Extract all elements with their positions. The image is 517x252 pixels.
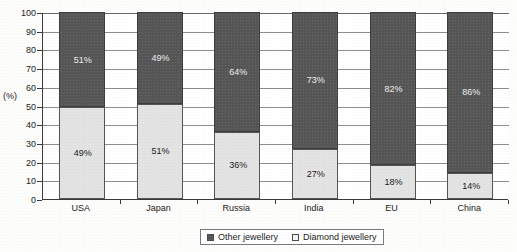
y-tick-label-80: 80 xyxy=(10,46,36,55)
x-tick-label-china: China xyxy=(429,203,509,213)
y-tick-mark-100 xyxy=(37,13,42,14)
chart-legend: Other jewelleryDiamond jewellery xyxy=(200,229,384,245)
y-tick-mark-50 xyxy=(37,107,42,108)
y-tick-label-10: 10 xyxy=(10,177,36,186)
y-tick-label-60: 60 xyxy=(10,84,36,93)
legend-label: Diamond jewellery xyxy=(303,233,377,242)
y-tick-label-70: 70 xyxy=(10,65,36,74)
y-tick-label-90: 90 xyxy=(10,28,36,37)
y-tick-mark-40 xyxy=(37,125,42,126)
stacked-bar-chart: 49%51%51%49%36%64%27%73%18%82%14%86% (%)… xyxy=(0,0,517,252)
y-tick-label-30: 30 xyxy=(10,140,36,149)
legend-entry-other-jewellery[interactable]: Other jewellery xyxy=(207,233,278,242)
legend-entry-diamond-jewellery[interactable]: Diamond jewellery xyxy=(292,233,377,242)
y-tick-mark-80 xyxy=(37,50,42,51)
x-tick-label-eu: EU xyxy=(352,203,432,213)
light-gray-swatch xyxy=(292,234,299,241)
y-tick-mark-0 xyxy=(37,200,42,201)
x-tick-label-india: India xyxy=(274,203,354,213)
x-tick-label-usa: USA xyxy=(41,203,121,213)
y-tick-label-40: 40 xyxy=(10,121,36,130)
y-tick-label-0: 0 xyxy=(10,196,36,205)
y-tick-mark-90 xyxy=(37,32,42,33)
y-tick-mark-30 xyxy=(37,144,42,145)
y-tick-mark-10 xyxy=(37,181,42,182)
x-tick-label-japan: Japan xyxy=(119,203,199,213)
y-tick-mark-60 xyxy=(37,88,42,89)
y-tick-mark-70 xyxy=(37,69,42,70)
x-tick-label-russia: Russia xyxy=(196,203,276,213)
y-tick-label-50: 50 xyxy=(10,103,36,112)
dark-gray-swatch xyxy=(207,234,214,241)
x-tick-mark-6 xyxy=(508,200,509,204)
y-tick-label-20: 20 xyxy=(10,159,36,168)
y-tick-mark-20 xyxy=(37,163,42,164)
y-axis: (%) 0102030405060708090100 xyxy=(0,0,517,252)
legend-label: Other jewellery xyxy=(218,233,278,242)
y-tick-label-100: 100 xyxy=(10,9,36,18)
